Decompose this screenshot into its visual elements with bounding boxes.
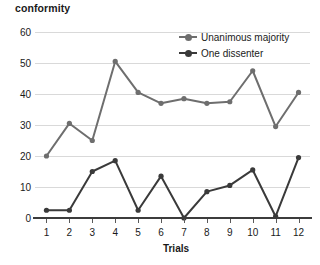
x-tick-label: 12: [293, 227, 304, 238]
x-tick-label: 9: [227, 227, 233, 238]
data-point-marker: [296, 90, 301, 95]
x-tick: [299, 219, 300, 223]
x-tick-label: 11: [270, 227, 280, 238]
data-point-marker: [67, 208, 72, 213]
x-tick-label: 1: [44, 227, 50, 238]
x-tick: [230, 219, 231, 223]
y-tick-label: 50: [0, 58, 31, 69]
data-point-marker: [227, 183, 232, 188]
x-tick-label: 10: [247, 227, 258, 238]
x-tick: [253, 219, 254, 223]
x-tick: [184, 219, 185, 223]
legend-marker-icon: [179, 48, 197, 58]
x-axis-line: [33, 217, 312, 219]
data-point-marker: [181, 96, 186, 101]
y-tick-label: 20: [0, 151, 31, 162]
data-point-marker: [67, 121, 72, 126]
chart-title: conformity: [15, 2, 70, 14]
data-point-marker: [113, 158, 118, 163]
data-point-marker: [250, 68, 255, 73]
x-axis-title: Trials: [0, 243, 320, 254]
y-tick-label: 60: [0, 27, 31, 38]
legend-item-one-dissenter[interactable]: One dissenter: [179, 46, 319, 60]
data-point-marker: [273, 124, 278, 129]
legend-label-unanimous-majority: Unanimous majority: [201, 32, 289, 43]
x-tick: [92, 219, 93, 223]
x-tick: [161, 219, 162, 223]
x-tick: [69, 219, 70, 223]
chart-container: conformity 0102030405060 Trials Unanimou…: [0, 0, 320, 265]
y-axis-tick-labels: 0102030405060: [0, 32, 31, 218]
y-tick-label: 0: [0, 213, 31, 224]
data-point-marker: [113, 59, 118, 64]
series-line: [46, 61, 298, 156]
data-point-marker: [227, 99, 232, 104]
x-tick-label: 6: [158, 227, 164, 238]
data-point-marker: [90, 138, 95, 143]
x-tick-label: 3: [90, 227, 96, 238]
y-tick-label: 30: [0, 120, 31, 131]
x-tick-label: 2: [67, 227, 73, 238]
data-point-marker: [158, 174, 163, 179]
x-tick-label: 5: [135, 227, 141, 238]
x-tick-label: 7: [181, 227, 187, 238]
y-tick-label: 10: [0, 182, 31, 193]
x-tick: [207, 219, 208, 223]
legend-label-one-dissenter: One dissenter: [201, 48, 263, 59]
x-tick: [138, 219, 139, 223]
data-point-marker: [90, 169, 95, 174]
data-point-marker: [296, 155, 301, 160]
data-point-marker: [44, 208, 49, 213]
x-tick-label: 4: [112, 227, 118, 238]
data-point-marker: [158, 101, 163, 106]
series-line: [46, 158, 298, 218]
data-point-marker: [204, 101, 209, 106]
legend-item-unanimous-majority[interactable]: Unanimous majority: [179, 30, 319, 44]
legend-marker-icon: [179, 32, 197, 42]
x-tick: [115, 219, 116, 223]
chart-legend: Unanimous majority One dissenter: [179, 30, 319, 62]
data-point-marker: [136, 90, 141, 95]
data-point-marker: [204, 189, 209, 194]
data-point-marker: [136, 208, 141, 213]
x-tick-label: 8: [204, 227, 210, 238]
x-tick: [46, 219, 47, 223]
data-point-marker: [44, 153, 49, 158]
y-tick-label: 40: [0, 89, 31, 100]
x-tick: [276, 219, 277, 223]
data-point-marker: [250, 167, 255, 172]
